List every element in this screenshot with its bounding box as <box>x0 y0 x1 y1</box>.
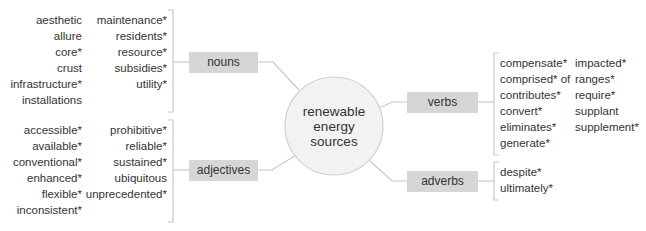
word: inconsistent* <box>13 202 82 218</box>
verbs-bracket <box>494 53 499 155</box>
center-line-3: sources <box>285 134 383 149</box>
verbs-box: verbs <box>407 92 478 113</box>
word: sustained* <box>86 154 167 170</box>
nouns-column-1: aesthetic allure core* crust infrastruct… <box>10 12 82 108</box>
center-topic: renewable energy sources <box>285 104 383 149</box>
word: ultimately* <box>500 180 553 196</box>
word: prohibitive* <box>86 122 167 138</box>
word: enhanced* <box>13 170 82 186</box>
word-map-diagram: renewable energy sources nouns aesthetic… <box>0 0 646 231</box>
nouns-column-2: maintenance* residents* resource* subsid… <box>97 12 167 92</box>
verbs-column-1: compensate* comprised* of contributes* c… <box>500 55 570 151</box>
word: maintenance* <box>97 12 167 28</box>
adverbs-bracket <box>494 162 499 200</box>
adjectives-box: adjectives <box>189 160 258 181</box>
word: residents* <box>97 28 167 44</box>
word: supplant <box>575 103 639 119</box>
word: core* <box>10 44 82 60</box>
word: utility* <box>97 76 167 92</box>
word: convert* <box>500 103 570 119</box>
word: unprecedented* <box>86 186 167 202</box>
word: eliminates* <box>500 119 570 135</box>
word: generate* <box>500 135 570 151</box>
word: available* <box>13 138 82 154</box>
word: contributes* <box>500 87 570 103</box>
center-line-2: energy <box>285 119 383 134</box>
word: resource* <box>97 44 167 60</box>
adverbs-box: adverbs <box>407 171 478 192</box>
word: impacted* <box>575 55 639 71</box>
word: allure <box>10 28 82 44</box>
word: crust <box>10 60 82 76</box>
word: ubiquitous <box>86 170 167 186</box>
word: require* <box>575 87 639 103</box>
word: reliable* <box>86 138 167 154</box>
word: comprised* of <box>500 71 570 87</box>
word: aesthetic <box>10 12 82 28</box>
nouns-box: nouns <box>189 52 258 73</box>
adjectives-column-2: prohibitive* reliable* sustained* ubiqui… <box>86 122 167 202</box>
word: compensate* <box>500 55 570 71</box>
word: infrastructure* <box>10 76 82 92</box>
word: accessible* <box>13 122 82 138</box>
adjectives-bracket <box>168 120 173 222</box>
adjectives-column-1: accessible* available* conventional* enh… <box>13 122 82 218</box>
word: flexible* <box>13 186 82 202</box>
nouns-bracket <box>168 10 173 112</box>
word: conventional* <box>13 154 82 170</box>
word: subsidies* <box>97 60 167 76</box>
center-line-1: renewable <box>285 104 383 119</box>
word: ranges* <box>575 71 639 87</box>
word: despite* <box>500 164 553 180</box>
word: supplement* <box>575 119 639 135</box>
word: installations <box>10 92 82 108</box>
verbs-column-2: impacted* ranges* require* supplant supp… <box>575 55 639 135</box>
adverbs-column-1: despite* ultimately* <box>500 164 553 196</box>
